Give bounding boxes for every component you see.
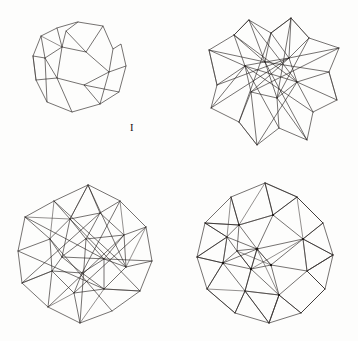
panel-figure-I: I <box>0 0 179 170</box>
panel-figure-IV: IV <box>179 171 358 341</box>
wireframe-polyhedron-I <box>0 0 179 171</box>
polyhedron-III-cross-struts <box>18 185 152 323</box>
polyhedron-II-face-detail <box>209 18 337 145</box>
polyhedra-figure-plate: I <box>0 0 358 341</box>
polyhedron-II-core-faces <box>209 18 339 145</box>
polyhedron-IV-triangulated-core <box>223 215 307 295</box>
panel-figure-III: III <box>0 171 179 341</box>
polyhedron-III-inner-core <box>50 213 126 293</box>
wireframe-polyhedron-II <box>179 0 358 171</box>
panel-label-I: I <box>130 122 134 133</box>
wireframe-polyhedron-IV <box>179 171 358 341</box>
wireframe-polyhedron-III <box>0 171 179 341</box>
polyhedron-I-edges <box>33 22 126 112</box>
polyhedron-III-facet-lines <box>22 185 146 323</box>
polyhedron-IV-vertex-fans <box>197 183 333 323</box>
polyhedron-IV-middle-shell <box>197 183 333 323</box>
panel-figure-II: II <box>179 0 358 170</box>
polyhedron-IV-outer-hull <box>197 183 333 323</box>
